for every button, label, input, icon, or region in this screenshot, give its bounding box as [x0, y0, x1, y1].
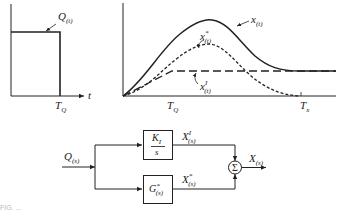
input-label: Q(s)	[64, 151, 79, 165]
pulse-curve	[11, 32, 60, 96]
tx-tick-label: Tx	[300, 100, 309, 114]
integrator-output-label: XI(s)	[182, 130, 195, 145]
integrator-block: KI s	[143, 130, 173, 160]
left-tq-tick-label: TQ	[55, 100, 66, 114]
figure-caption-fragment: FIG. ...	[0, 204, 21, 211]
right-plot	[123, 3, 336, 96]
sigma-symbol: Σ	[232, 162, 238, 173]
transfer-output-label: X*(s)	[182, 173, 196, 188]
left-plot	[11, 4, 84, 96]
integrator-numerator: KI	[152, 133, 161, 146]
integrator-denominator: s	[155, 148, 159, 157]
output-label: X(s)	[249, 153, 263, 167]
xI-label-pointer	[195, 73, 198, 84]
tq-tick-label: TQ	[167, 100, 178, 114]
xstar-curve-label: x*(t)	[200, 30, 211, 45]
curve-x-star	[123, 44, 300, 96]
left-x-axis-label: t	[88, 90, 91, 101]
pulse-label-pointer	[46, 24, 56, 31]
x-label-pointer	[237, 21, 249, 26]
curve-x-total	[123, 20, 336, 96]
pulse-label: Q(t)	[58, 11, 73, 25]
xI-curve-label: xI(t)	[200, 80, 211, 95]
x-curve-label: x(t)	[251, 14, 263, 28]
transfer-function-block: G*(s)	[143, 175, 173, 204]
transfer-function-label: G*(s)	[149, 183, 163, 197]
curve-x-integral	[123, 71, 336, 96]
